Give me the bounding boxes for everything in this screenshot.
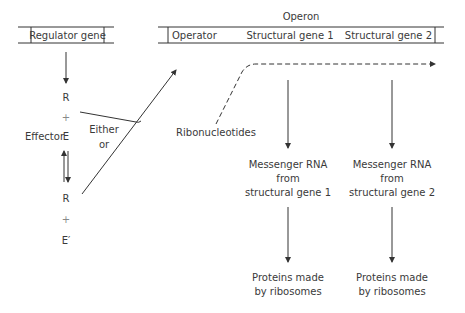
mrna-2-line1: Messenger RNA [353, 159, 432, 170]
or-label: or [99, 139, 110, 150]
operon-box: Operon Operator Structural gene 1 Struct… [158, 11, 444, 43]
mrna-2-line2: from [380, 173, 403, 184]
plus-2: + [62, 214, 70, 225]
regulator-gene-label: Regulator gene [29, 30, 106, 41]
mrna-1-line2: from [276, 173, 299, 184]
operator-label: Operator [172, 30, 218, 41]
either-label: Either [89, 124, 120, 135]
transcription-dashed-arrow [216, 64, 435, 124]
mrna-1-line3: structural gene 1 [245, 187, 331, 198]
structural-gene-1-label: Structural gene 1 [246, 30, 333, 41]
effector-label: Effector [25, 131, 65, 142]
repressor-r1: R [63, 92, 70, 103]
mrna-1-line1: Messenger RNA [249, 159, 328, 170]
either-line [80, 112, 141, 122]
protein-1-line1: Proteins made [252, 272, 324, 283]
protein-2-line1: Proteins made [356, 272, 428, 283]
ribonucleotides-label: Ribonucleotides [176, 127, 256, 138]
protein-1-line2: by ribosomes [254, 286, 321, 297]
operon-title: Operon [283, 11, 320, 22]
repressor-r2: R [63, 193, 70, 204]
operon-diagram: Regulator gene Operon Operator Structura… [0, 0, 465, 313]
effector-e-prime: E′ [62, 235, 71, 246]
protein-2-line2: by ribosomes [358, 286, 425, 297]
mrna-2-line3: structural gene 2 [349, 187, 435, 198]
structural-gene-2-label: Structural gene 2 [345, 30, 432, 41]
regulator-gene-box: Regulator gene [18, 27, 114, 43]
effector-e: E [63, 131, 69, 142]
plus-1: + [62, 112, 70, 123]
